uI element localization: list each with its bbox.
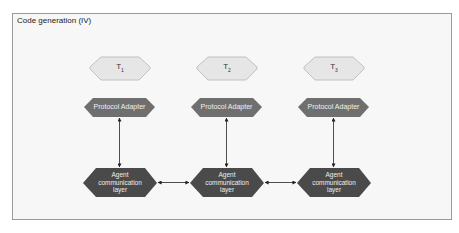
- protocol-adapter-label-2: Protocol Adapter: [191, 103, 262, 111]
- agent-layer-label-3: Agent communication layer: [299, 171, 369, 194]
- task-label-subscript: 1: [121, 67, 124, 73]
- task-label-1: T1: [100, 63, 140, 74]
- agent-layer-line2: communication: [85, 179, 155, 187]
- agent-layer-line3: layer: [299, 186, 369, 194]
- diagram-canvas: [0, 0, 459, 233]
- agent-layer-line2: communication: [192, 179, 262, 187]
- agent-layer-line1: Agent: [85, 171, 155, 179]
- agent-layer-line2: communication: [299, 179, 369, 187]
- agent-layer-line1: Agent: [192, 171, 262, 179]
- protocol-adapter-label-1: Protocol Adapter: [84, 103, 155, 111]
- agent-layer-label-1: Agent communication layer: [85, 171, 155, 194]
- agent-layer-label-2: Agent communication layer: [192, 171, 262, 194]
- task-label-subscript: 2: [228, 67, 231, 73]
- agent-layer-line1: Agent: [299, 171, 369, 179]
- task-label-subscript: 3: [335, 67, 338, 73]
- protocol-adapter-label-3: Protocol Adapter: [298, 103, 369, 111]
- agent-layer-line3: layer: [192, 186, 262, 194]
- task-label-3: T3: [314, 63, 354, 74]
- agent-layer-line3: layer: [85, 186, 155, 194]
- task-label-2: T2: [207, 63, 247, 74]
